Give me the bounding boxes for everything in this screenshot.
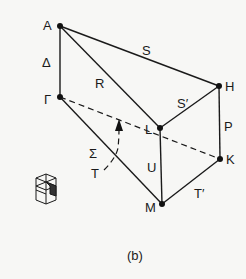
label-p: P <box>224 119 233 134</box>
edge-sigma <box>60 97 162 204</box>
edge-s-prime <box>160 86 219 128</box>
edge-u <box>160 128 162 204</box>
label-r: R <box>95 76 104 91</box>
label-t-prime: T′ <box>194 186 205 201</box>
label-a: A <box>43 18 52 33</box>
label-t: T <box>91 166 99 181</box>
label-l: L <box>145 122 152 137</box>
label-s-prime: S′ <box>177 96 189 111</box>
point-gamma <box>57 94 63 100</box>
edge-s <box>60 26 219 86</box>
label-gamma: Γ <box>44 92 51 107</box>
point-k <box>217 156 223 162</box>
label-s: S <box>142 43 151 58</box>
point-l <box>157 125 163 131</box>
arrowhead-icon <box>115 119 123 131</box>
label-m: M <box>145 200 156 215</box>
point-m <box>159 201 165 207</box>
t-arrow-path <box>104 128 119 170</box>
label-u: U <box>147 160 156 175</box>
edge-t-prime <box>162 159 220 204</box>
brillouin-zone-diagram: A Δ Γ R S S′ H P L U Σ T K T′ M (b) <box>0 0 246 279</box>
label-delta: Δ <box>42 55 51 70</box>
hexagonal-prism-inset-icon <box>36 174 56 204</box>
edge-p <box>219 86 220 159</box>
label-k: K <box>226 152 235 167</box>
label-sigma: Σ <box>89 146 97 161</box>
figure-caption: (b) <box>127 248 143 263</box>
label-h: H <box>225 79 234 94</box>
point-h <box>216 83 222 89</box>
point-a <box>57 23 63 29</box>
edge-gamma-k-dashed <box>60 97 220 159</box>
